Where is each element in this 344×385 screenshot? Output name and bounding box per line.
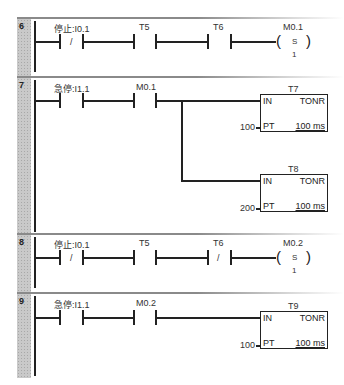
network-separator bbox=[17, 17, 344, 19]
rung-wire bbox=[82, 257, 134, 259]
network-7-gutter bbox=[17, 78, 31, 233]
timer-name: T7 bbox=[288, 84, 299, 94]
timer-box-t7[interactable]: IN TONR PT 100 ms bbox=[260, 94, 328, 132]
timer-pt-value: 200 bbox=[240, 203, 255, 213]
timer-name: T8 bbox=[288, 164, 299, 174]
nc-slash-icon: / bbox=[70, 253, 73, 263]
timer-resolution: 100 ms bbox=[295, 201, 325, 211]
pt-wire bbox=[256, 127, 261, 129]
contact-label: 急停:I1.1 bbox=[54, 298, 90, 311]
coil-count: 1 bbox=[292, 266, 296, 275]
timer-pt-value: 100 bbox=[240, 340, 255, 350]
contact-bar bbox=[59, 34, 61, 49]
contact-bar bbox=[59, 310, 61, 325]
coil-count: 1 bbox=[292, 50, 296, 59]
contact-bar bbox=[59, 250, 61, 265]
rung-wire bbox=[35, 41, 60, 43]
rung-wire bbox=[82, 41, 134, 43]
timer-pt-value: 100 bbox=[240, 122, 255, 132]
coil-left-paren-icon: ( bbox=[276, 248, 281, 265]
network-9-gutter bbox=[17, 294, 31, 378]
rung-wire bbox=[35, 100, 60, 102]
coil-right-paren-icon: ) bbox=[306, 248, 311, 265]
contact-label: 急停:I1.1 bbox=[54, 82, 90, 95]
power-rail bbox=[34, 237, 36, 288]
timer-type: TONR bbox=[300, 313, 325, 323]
network-number: 9 bbox=[19, 296, 24, 306]
branch-wire bbox=[181, 100, 183, 181]
network-separator bbox=[17, 292, 344, 294]
contact-bar bbox=[133, 93, 135, 108]
contact-label: T6 bbox=[213, 22, 224, 32]
timer-name: T9 bbox=[288, 301, 299, 311]
contact-bar bbox=[207, 34, 209, 49]
rung-wire bbox=[155, 100, 261, 102]
coil-op: S bbox=[292, 37, 297, 46]
network-separator bbox=[17, 233, 344, 235]
contact-label: T5 bbox=[139, 22, 150, 32]
timer-box-t8[interactable]: IN TONR PT 100 ms bbox=[260, 174, 328, 212]
timer-resolution: 100 ms bbox=[295, 338, 325, 348]
pt-wire bbox=[256, 345, 261, 347]
branch-wire bbox=[181, 180, 261, 182]
contact-bar bbox=[207, 250, 209, 265]
rung-wire bbox=[35, 317, 60, 319]
contact-bar bbox=[133, 310, 135, 325]
timer-pt-pin: PT bbox=[263, 201, 275, 211]
network-number: 6 bbox=[19, 21, 24, 31]
timer-pt-pin: PT bbox=[263, 338, 275, 348]
rung-wire bbox=[82, 317, 134, 319]
contact-bar bbox=[59, 93, 61, 108]
contact-label: T5 bbox=[139, 238, 150, 248]
contact-bar bbox=[133, 250, 135, 265]
power-rail bbox=[34, 80, 36, 232]
network-number: 7 bbox=[19, 80, 24, 90]
coil-label: M0.2 bbox=[283, 238, 303, 248]
contact-label: 停止:I0.1 bbox=[54, 22, 90, 35]
contact-bar bbox=[133, 34, 135, 49]
power-rail bbox=[34, 21, 36, 72]
contact-label: 停止:I0.1 bbox=[54, 238, 90, 251]
nc-slash-icon: / bbox=[217, 253, 220, 263]
rung-wire bbox=[230, 41, 276, 43]
timer-in-pin: IN bbox=[263, 176, 272, 186]
timer-type: TONR bbox=[300, 96, 325, 106]
network-separator bbox=[17, 76, 344, 78]
rung-wire bbox=[35, 257, 60, 259]
power-rail bbox=[34, 296, 36, 376]
timer-box-t9[interactable]: IN TONR PT 100 ms bbox=[260, 311, 328, 349]
contact-label: M0.1 bbox=[136, 82, 156, 92]
rung-wire bbox=[155, 257, 208, 259]
pt-wire bbox=[256, 208, 261, 210]
timer-in-pin: IN bbox=[263, 96, 272, 106]
rung-wire bbox=[155, 41, 208, 43]
rung-wire bbox=[230, 257, 276, 259]
contact-label: T6 bbox=[213, 238, 224, 248]
network-number: 8 bbox=[19, 237, 24, 247]
timer-type: TONR bbox=[300, 176, 325, 186]
rung-wire bbox=[82, 100, 134, 102]
timer-resolution: 100 ms bbox=[295, 121, 325, 131]
coil-left-paren-icon: ( bbox=[276, 32, 281, 49]
contact-label: M0.2 bbox=[136, 298, 156, 308]
timer-in-pin: IN bbox=[263, 313, 272, 323]
timer-pt-pin: PT bbox=[263, 121, 275, 131]
coil-label: M0.1 bbox=[283, 22, 303, 32]
nc-slash-icon: / bbox=[70, 37, 73, 47]
coil-right-paren-icon: ) bbox=[306, 32, 311, 49]
rung-wire bbox=[155, 317, 261, 319]
coil-op: S bbox=[292, 253, 297, 262]
